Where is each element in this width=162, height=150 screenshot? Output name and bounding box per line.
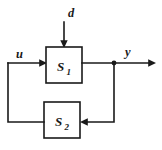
signal-path-d	[60, 22, 67, 48]
feedback-down-arrowhead-icon	[80, 118, 88, 125]
block-diagram-figure: S 1 S 2 d u y	[0, 0, 162, 150]
block-S2-label: S	[55, 114, 62, 129]
block-S1-label: S	[57, 59, 64, 74]
block-S2-subscript: 2	[64, 122, 70, 132]
block-diagram-canvas: S 1 S 2 d u y	[0, 0, 162, 150]
signal-label-u: u	[16, 47, 23, 61]
signal-label-y: y	[123, 45, 131, 59]
feedback-down-wire	[85, 63, 115, 122]
y-arrowhead-icon	[148, 59, 156, 66]
block-S1-subscript: 1	[67, 67, 72, 77]
signal-path-u	[8, 59, 47, 66]
signal-path-feedback-return	[8, 63, 44, 122]
signal-path-feedback-down	[80, 63, 114, 126]
block-S2: S 2	[44, 102, 80, 138]
feedback-return-wire	[8, 63, 44, 122]
signal-path-y	[82, 59, 156, 66]
signal-label-d: d	[68, 6, 75, 20]
block-S1: S 1	[46, 47, 82, 83]
